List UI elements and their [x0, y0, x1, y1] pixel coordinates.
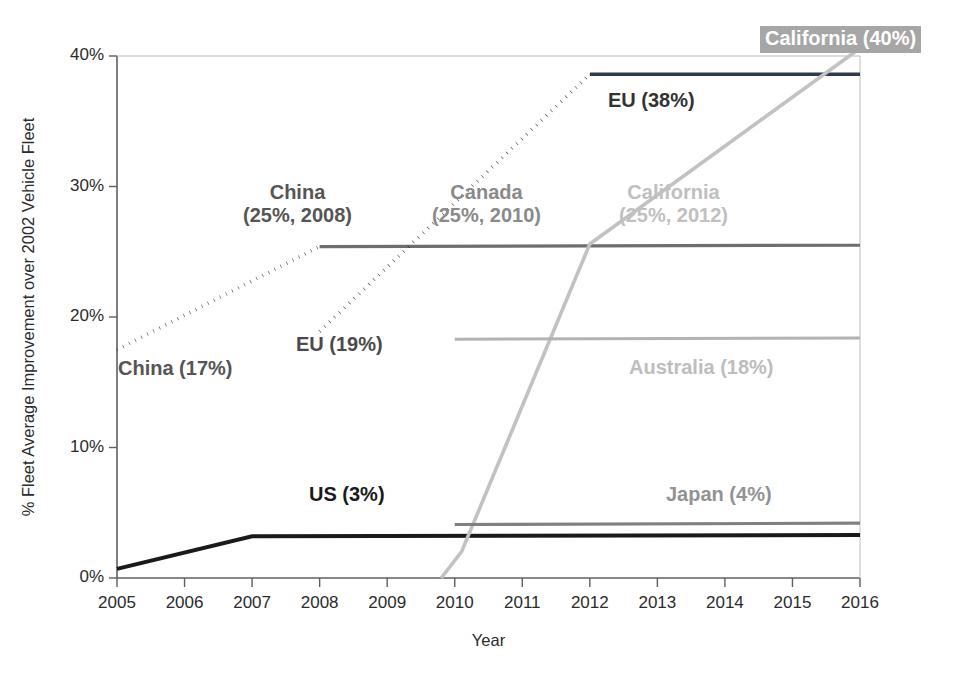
series-australia — [455, 338, 860, 339]
annotation-california-target-line1: California — [619, 181, 728, 204]
series-japan — [455, 523, 860, 524]
annotation-australia-final: Australia (18%) — [629, 356, 774, 379]
annotation-canada-target-line2: (25%, 2010) — [432, 204, 541, 227]
x-tick-label: 2013 — [638, 593, 676, 612]
x-tick-label: 2005 — [98, 593, 136, 612]
series-china — [117, 247, 320, 350]
x-tick-label: 2008 — [301, 593, 339, 612]
y-tick-label: 20% — [70, 306, 104, 325]
series-us — [117, 535, 860, 569]
annotation-eu-start: EU (19%) — [296, 333, 383, 356]
x-tick-label: 2012 — [571, 593, 609, 612]
x-tick-label: 2006 — [166, 593, 204, 612]
y-tick-label: 30% — [70, 176, 104, 195]
annotation-japan-final: Japan (4%) — [666, 483, 772, 506]
annotation-canada-target: Canada (25%, 2010) — [432, 181, 541, 227]
annotation-california-target-line2: (25%, 2012) — [619, 204, 728, 227]
y-tick-label: 0% — [79, 567, 104, 586]
x-axis-title: Year — [472, 631, 506, 649]
chart-plot-area: 0%10%20%30%40%20052006200720082009201020… — [0, 0, 975, 674]
annotation-china-target-line2: (25%, 2008) — [243, 204, 352, 227]
x-tick-label: 2010 — [436, 593, 474, 612]
fuel-economy-line-chart: 0%10%20%30%40%20052006200720082009201020… — [0, 0, 975, 674]
y-tick-label: 40% — [70, 45, 104, 64]
x-tick-label: 2016 — [841, 593, 879, 612]
x-tick-label: 2007 — [233, 593, 271, 612]
tick-labels: 0%10%20%30%40%20052006200720082009201020… — [70, 45, 879, 612]
annotation-canada-target-line1: Canada — [432, 181, 541, 204]
x-tick-label: 2011 — [504, 593, 541, 612]
axes — [109, 56, 860, 587]
x-tick-label: 2014 — [706, 593, 744, 612]
annotation-eu-final: EU (38%) — [608, 89, 695, 112]
y-tick-label: 10% — [70, 437, 104, 456]
annotation-china-target-line1: China — [243, 181, 352, 204]
annotation-california-target: California (25%, 2012) — [619, 181, 728, 227]
annotation-california-final: California (40%) — [760, 26, 921, 53]
annotation-us-final: US (3%) — [309, 483, 385, 506]
y-axis-title: % Fleet Average Improvement over 2002 Ve… — [19, 117, 37, 516]
annotation-china-start: China (17%) — [118, 357, 232, 380]
x-tick-label: 2015 — [774, 593, 812, 612]
series-california — [441, 48, 860, 578]
annotation-china-target: China (25%, 2008) — [243, 181, 352, 227]
x-tick-label: 2009 — [368, 593, 406, 612]
